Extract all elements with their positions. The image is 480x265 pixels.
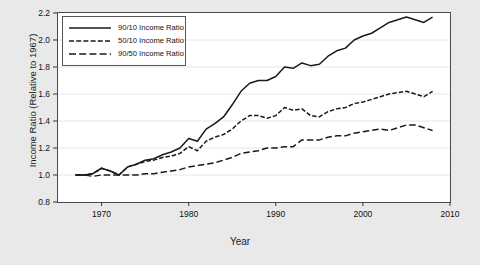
y-tick-label: 2.2 — [38, 8, 50, 18]
y-tick-label: 1.6 — [38, 89, 50, 99]
legend-item-9050: 90/50 Income Ratio — [68, 47, 180, 60]
x-tick-label: 2000 — [353, 209, 372, 219]
legend-label-9010: 90/10 Income Ratio — [118, 23, 184, 32]
x-tick-label: 1980 — [179, 209, 198, 219]
legend-item-9010: 90/10 Income Ratio — [68, 21, 180, 34]
y-axis-title: Income Ratio (Relative to 1967) — [27, 6, 38, 196]
y-tick-label: 1.2 — [38, 143, 50, 153]
legend-swatch-dotdash — [68, 36, 112, 46]
legend-swatch-dashed — [68, 49, 112, 59]
income-ratio-chart: 0.81.01.21.41.61.82.02.21970198019902000… — [0, 0, 480, 265]
x-tick-label: 1970 — [92, 209, 111, 219]
y-tick-label: 1.8 — [38, 62, 50, 72]
x-axis-title: Year — [0, 236, 480, 247]
legend-label-9050: 90/50 Income Ratio — [118, 49, 184, 58]
series-line-2 — [75, 125, 432, 176]
y-tick-label: 2.0 — [38, 35, 50, 45]
y-tick-label: 1.4 — [38, 116, 50, 126]
x-tick-label: 1990 — [266, 209, 285, 219]
chart-legend: 90/10 Income Ratio 50/10 Income Ratio 90… — [62, 16, 186, 66]
x-tick-label: 2010 — [441, 209, 460, 219]
legend-label-5010: 50/10 Income Ratio — [118, 36, 184, 45]
legend-item-5010: 50/10 Income Ratio — [68, 34, 180, 47]
series-line-1 — [75, 91, 432, 175]
y-tick-label: 1.0 — [38, 170, 50, 180]
y-tick-label: 0.8 — [38, 197, 50, 207]
legend-swatch-solid — [68, 23, 112, 33]
